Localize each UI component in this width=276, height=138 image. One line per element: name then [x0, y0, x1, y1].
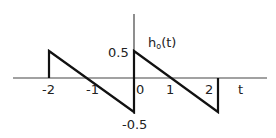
x-tick-2: 2: [205, 83, 213, 96]
y-tick-neg0.5: -0.5: [122, 118, 147, 131]
y-axis-label: ho(t): [148, 36, 176, 51]
x-tick-0: 0: [136, 83, 144, 96]
sawtooth-waveform: [49, 51, 218, 112]
x-tick-neg1: -1: [86, 83, 99, 96]
x-axis-label: t: [238, 83, 243, 96]
x-tick-neg2: -2: [42, 83, 55, 96]
x-tick-1: 1: [166, 83, 174, 96]
y-tick-0.5: 0.5: [108, 46, 129, 59]
